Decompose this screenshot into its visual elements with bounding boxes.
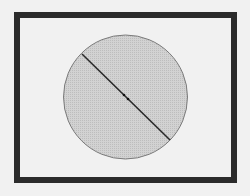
center-dot <box>123 94 126 97</box>
center-dot <box>127 98 130 101</box>
geometry-diagram <box>0 0 250 196</box>
